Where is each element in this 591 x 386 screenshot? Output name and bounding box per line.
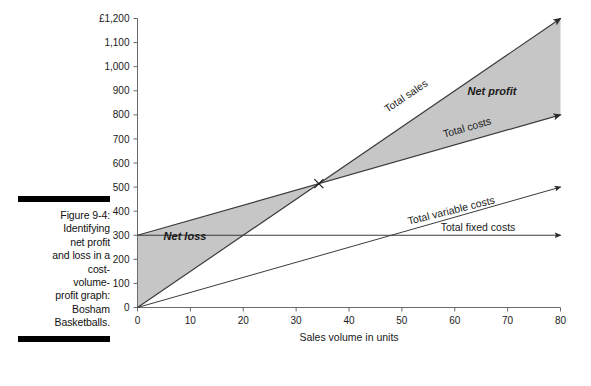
- cost-volume-profit-chart: 01002003004005006007008009001,0001,100£1…: [0, 0, 591, 350]
- net-loss-label: Net loss: [164, 230, 207, 242]
- next-figure-sliver: £1,200 ⊤: [0, 352, 591, 386]
- x-tick-label: 50: [396, 315, 408, 326]
- total-sales-label: Total sales: [382, 77, 430, 115]
- y-tick-label: 300: [113, 230, 130, 241]
- y-tick-label: 200: [113, 254, 130, 265]
- y-axis-ticks: [134, 19, 138, 308]
- y-tick-label: 1,100: [104, 37, 129, 48]
- x-tick-label: 60: [449, 315, 461, 326]
- y-tick-label: 900: [113, 85, 130, 96]
- y-tick-label: 400: [113, 206, 130, 217]
- y-tick-label: 700: [113, 134, 130, 145]
- y-tick-label: 800: [113, 109, 130, 120]
- data-series: [138, 19, 561, 308]
- y-tick-label: 1,000: [104, 61, 129, 72]
- total-sales-line: [138, 19, 561, 308]
- x-tick-label: 20: [238, 315, 250, 326]
- net-profit-label: Net profit: [468, 85, 518, 97]
- x-tick-label: 70: [502, 315, 514, 326]
- total-fixed-costs-label: Total fixed costs: [441, 221, 516, 233]
- x-axis-title: Sales volume in units: [299, 331, 398, 343]
- x-tick-label: 10: [185, 315, 197, 326]
- y-tick-label: £1,200: [99, 13, 130, 24]
- figure-9-4: Figure 9-4: Identifying net profit and l…: [0, 0, 591, 386]
- break-even-point-marker: [314, 179, 323, 188]
- x-axis-tick-labels: 01020304050607080: [135, 315, 567, 326]
- y-tick-label: 600: [113, 158, 130, 169]
- y-tick-label: 100: [113, 278, 130, 289]
- x-tick-label: 30: [291, 315, 303, 326]
- y-axis-tick-labels: 01002003004005006007008009001,0001,100£1…: [99, 13, 130, 313]
- total-costs-line: [138, 115, 561, 235]
- x-tick-label: 40: [343, 315, 355, 326]
- x-tick-label: 80: [555, 315, 567, 326]
- y-tick-label: 500: [113, 182, 130, 193]
- x-tick-label: 0: [135, 315, 141, 326]
- y-tick-label: 0: [124, 302, 130, 313]
- x-axis-ticks: [138, 308, 561, 312]
